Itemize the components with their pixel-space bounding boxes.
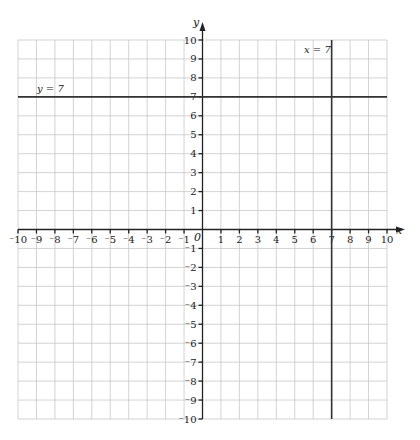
y-tick-label: 9 xyxy=(190,53,196,64)
line-label-x7: x = 7 xyxy=(304,44,331,55)
x-tick-label: ⁻8 xyxy=(49,234,61,245)
x-tick-label: ⁻10 xyxy=(9,234,27,245)
x-tick-label: ⁻6 xyxy=(86,234,98,245)
x-tick-label: 4 xyxy=(273,234,279,245)
line-label-y7: y = 7 xyxy=(36,83,64,94)
x-tick-label: ⁻2 xyxy=(160,234,172,245)
y-tick-label: ⁻6 xyxy=(185,338,197,349)
x-tick-label: ⁻7 xyxy=(68,234,80,245)
x-tick-label: ⁻5 xyxy=(104,234,116,245)
x-tick-label: 1 xyxy=(218,234,224,245)
y-tick-label: 10 xyxy=(184,35,197,46)
x-tick-label: 2 xyxy=(236,234,242,245)
y-tick-label: ⁻9 xyxy=(185,395,197,406)
y-axis-arrow-icon xyxy=(200,22,206,31)
x-tick-label: 10 xyxy=(381,234,394,245)
x-tick-label: 8 xyxy=(347,234,353,245)
coordinate-grid: ⁻10⁻9⁻8⁻7⁻6⁻5⁻4⁻3⁻2⁻11234567891010987654… xyxy=(0,0,420,440)
y-tick-label: 6 xyxy=(190,110,196,121)
x-tick-label: ⁻9 xyxy=(31,234,43,245)
x-tick-label: ⁻4 xyxy=(123,234,135,245)
y-tick-label: ⁻10 xyxy=(178,414,196,425)
y-tick-label: ⁻4 xyxy=(185,300,197,311)
y-tick-label: ⁻2 xyxy=(185,262,197,273)
axes xyxy=(18,22,405,419)
y-tick-label: ⁻3 xyxy=(185,281,197,292)
y-tick-label: ⁻1 xyxy=(185,243,197,254)
y-tick-label: 5 xyxy=(190,129,196,140)
y-axis-label: y xyxy=(192,16,200,29)
y-tick-label: ⁻7 xyxy=(185,357,197,368)
y-tick-label: ⁻8 xyxy=(185,376,197,387)
y-tick-label: 8 xyxy=(190,72,196,83)
x-tick-label: 9 xyxy=(365,234,371,245)
y-tick-label: 3 xyxy=(190,167,196,178)
origin-label: 0 xyxy=(194,231,201,244)
x-tick-label: ⁻3 xyxy=(141,234,153,245)
y-tick-label: 2 xyxy=(190,186,196,197)
y-tick-label: 1 xyxy=(190,205,196,216)
x-tick-label: 6 xyxy=(310,234,316,245)
x-tick-label: 5 xyxy=(292,234,298,245)
x-tick-label: 3 xyxy=(255,234,261,245)
y-tick-label: ⁻5 xyxy=(185,319,197,330)
x-axis-label: x xyxy=(396,224,403,237)
y-tick-label: 4 xyxy=(190,148,196,159)
